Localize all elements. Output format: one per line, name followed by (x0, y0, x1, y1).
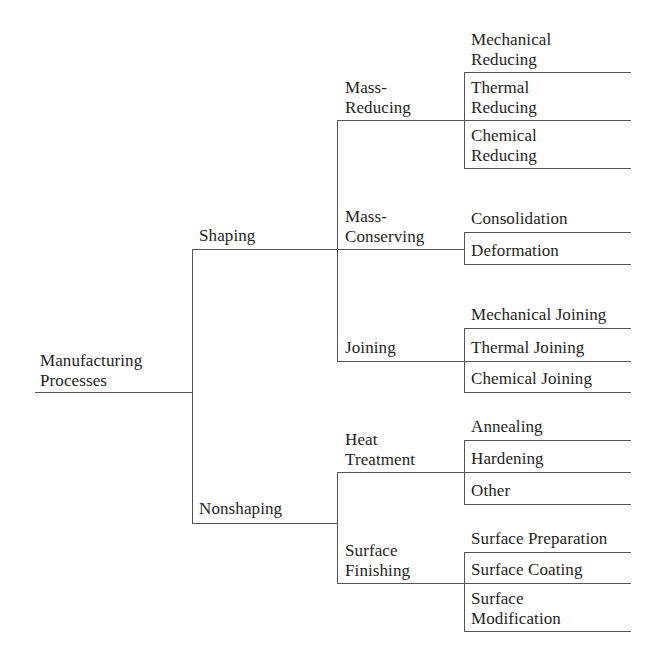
underline-other (464, 504, 631, 505)
underline-mechanical-reducing (464, 72, 631, 73)
leaf-surface-coating: Surface Coating (471, 560, 583, 580)
connector-nonshaping (192, 523, 338, 524)
node-joining: Joining (345, 338, 396, 358)
leaf-thermal-joining: Thermal Joining (471, 338, 584, 358)
connector-shaping (192, 249, 338, 250)
leaf-mechanical-reducing: Mechanical Reducing (471, 30, 551, 70)
leaf-thermal-reducing: Thermal Reducing (471, 78, 537, 118)
underline-surface-modification (464, 631, 631, 632)
leaf-deformation: Deformation (471, 241, 559, 261)
underline-chemical-joining (464, 392, 631, 393)
underline-chemical-reducing (464, 168, 631, 169)
underline-deformation (464, 264, 631, 265)
connector-surface-finishing-branch (464, 552, 465, 632)
node-shaping: Shaping (199, 226, 255, 246)
node-heat-treatment: Heat Treatment (345, 430, 415, 470)
leaf-consolidation: Consolidation (471, 209, 568, 229)
connector-mass-conserving (337, 249, 464, 250)
underline-thermal-reducing (464, 120, 631, 121)
leaf-annealing: Annealing (471, 417, 543, 437)
node-mass-reducing: Mass- Reducing (345, 78, 411, 118)
connector-surface-finishing (337, 583, 464, 584)
leaf-chemical-reducing: Chemical Reducing (471, 126, 537, 166)
connector-root (35, 392, 192, 393)
manufacturing-processes-tree: Manufacturing Processes Shaping Nonshapi… (0, 0, 663, 658)
node-surface-finishing: Surface Finishing (345, 541, 410, 581)
underline-consolidation (464, 232, 631, 233)
underline-thermal-joining (464, 361, 631, 362)
leaf-surface-modification: Surface Modification (471, 589, 561, 629)
connector-nonshaping-branch (337, 472, 338, 584)
node-mass-conserving: Mass- Conserving (345, 207, 424, 247)
underline-surface-coating (464, 583, 631, 584)
leaf-surface-preparation: Surface Preparation (471, 529, 607, 549)
connector-mass-reducing (337, 120, 464, 121)
connector-heat-treatment (337, 472, 464, 473)
underline-mechanical-joining (464, 328, 631, 329)
node-nonshaping: Nonshaping (199, 499, 282, 519)
connector-shaping-branch (337, 120, 338, 362)
leaf-other: Other (471, 481, 510, 501)
underline-surface-preparation (464, 552, 631, 553)
leaf-hardening: Hardening (471, 449, 544, 469)
connector-joining (337, 361, 464, 362)
underline-annealing (464, 440, 631, 441)
leaf-mechanical-joining: Mechanical Joining (471, 305, 606, 325)
leaf-chemical-joining: Chemical Joining (471, 369, 592, 389)
node-manufacturing-processes: Manufacturing Processes (40, 351, 142, 391)
connector-root-branch (192, 249, 193, 524)
connector-mass-conserving-branch (464, 232, 465, 265)
underline-hardening (464, 472, 631, 473)
